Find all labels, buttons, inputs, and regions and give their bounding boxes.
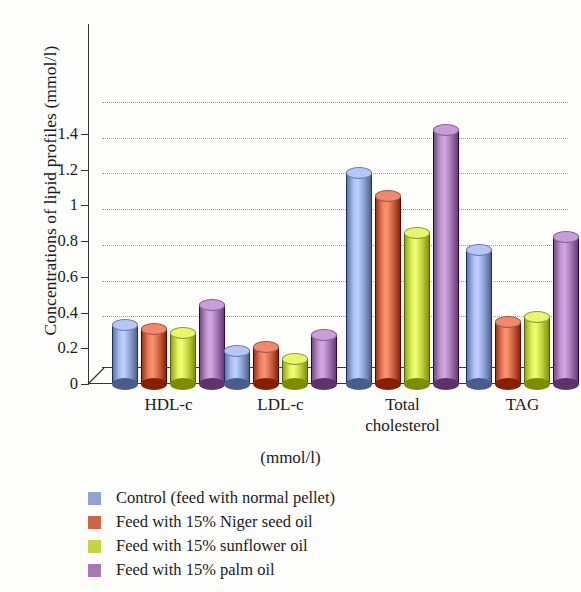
y-axis-tick-label: 0.2 xyxy=(26,338,78,358)
bar-base-ellipse xyxy=(170,378,196,390)
y-axis-tick-label: 1 xyxy=(26,195,78,215)
legend-color-swatch xyxy=(88,564,101,577)
bar-body xyxy=(466,250,492,384)
bar-body xyxy=(495,322,521,385)
bar-base-ellipse xyxy=(466,378,492,390)
bar-body xyxy=(375,196,401,384)
y-axis-tick xyxy=(81,277,89,278)
bar-base-ellipse xyxy=(112,378,138,390)
bar xyxy=(346,167,372,384)
bar-body xyxy=(346,173,372,384)
bar xyxy=(404,227,430,384)
x-axis-category-label: Total cholesterol xyxy=(343,394,463,436)
bar-base-ellipse xyxy=(224,378,250,390)
y-axis-tick xyxy=(81,134,89,135)
legend-label: Feed with 15% Niger seed oil xyxy=(116,512,313,532)
bar-body xyxy=(170,333,196,384)
bar-base-ellipse xyxy=(553,378,579,390)
y-axis-tick xyxy=(81,205,89,206)
gridline xyxy=(102,245,568,246)
bar-body xyxy=(141,329,167,384)
bar-base-ellipse xyxy=(199,378,225,390)
bar xyxy=(311,329,337,384)
bar-top-outline xyxy=(375,190,401,202)
bar-base-ellipse xyxy=(433,378,459,390)
bar xyxy=(433,124,459,384)
bar xyxy=(253,341,279,384)
legend-label: Feed with 15% palm oil xyxy=(116,560,275,580)
y-axis-tick-label: 1.2 xyxy=(26,159,78,179)
bar-body xyxy=(311,335,337,384)
bar xyxy=(282,353,308,384)
y-axis-tick-label: 0.8 xyxy=(26,231,78,251)
y-axis-tick-label: 0.6 xyxy=(26,266,78,286)
legend-color-swatch xyxy=(88,516,101,529)
chart-legend: Control (feed with normal pellet)Feed wi… xyxy=(88,486,335,582)
legend-item: Control (feed with normal pellet) xyxy=(88,486,335,510)
bar xyxy=(141,323,167,384)
x-axis-category-label: LDL-c xyxy=(221,394,341,415)
bar-body xyxy=(404,233,430,384)
bar-base-ellipse xyxy=(495,378,521,390)
x-axis-category-label: HDL-c xyxy=(109,394,229,415)
y-axis-tick-label: 1.4 xyxy=(26,124,78,144)
bar-top-outline xyxy=(282,353,308,365)
bar-body xyxy=(433,130,459,384)
y-axis-tick xyxy=(81,384,89,385)
gridlines xyxy=(102,6,568,368)
legend-color-swatch xyxy=(88,492,101,505)
bar-base-ellipse xyxy=(253,378,279,390)
bar-top-outline xyxy=(141,323,167,335)
bar-base-ellipse xyxy=(524,378,550,390)
bar-top-outline xyxy=(524,311,550,323)
bar xyxy=(553,231,579,384)
bar-base-ellipse xyxy=(346,378,372,390)
y-axis-tick xyxy=(81,170,89,171)
legend-label: Feed with 15% sunflower oil xyxy=(116,536,308,556)
x-axis-title: (mmol/l) xyxy=(0,448,581,468)
legend-item: Feed with 15% sunflower oil xyxy=(88,534,335,558)
legend-item: Feed with 15% palm oil xyxy=(88,558,335,582)
y-axis-tick-label: 0.4 xyxy=(26,302,78,322)
depth-diagonal xyxy=(88,366,110,384)
gridline xyxy=(102,102,568,103)
bar-top-outline xyxy=(466,244,492,256)
bar-base-ellipse xyxy=(404,378,430,390)
bar-top-outline xyxy=(553,231,579,243)
gridline xyxy=(102,138,568,139)
bar-top-outline xyxy=(495,316,521,328)
bar-body xyxy=(524,317,550,384)
bar xyxy=(466,244,492,384)
bar-base-ellipse xyxy=(141,378,167,390)
bar-body xyxy=(112,325,138,384)
y-axis-tick-label: 0 xyxy=(26,374,78,394)
bar-chart: Concentrations of lipid profiles (mmol/l… xyxy=(0,0,581,592)
y-axis-line xyxy=(88,24,89,384)
bar-base-ellipse xyxy=(375,378,401,390)
bar-body xyxy=(199,305,225,384)
y-axis-tick xyxy=(81,313,89,314)
bar xyxy=(375,190,401,384)
bar-top-outline xyxy=(112,319,138,331)
y-axis-tick xyxy=(81,241,89,242)
gridline xyxy=(102,281,568,282)
bar xyxy=(199,299,225,384)
bar xyxy=(112,319,138,384)
y-axis-tick xyxy=(81,348,89,349)
bar-top-outline xyxy=(224,345,250,357)
bar xyxy=(224,345,250,384)
gridline xyxy=(102,173,568,174)
bar-body xyxy=(553,237,579,384)
legend-color-swatch xyxy=(88,540,101,553)
bar xyxy=(524,311,550,384)
bar-base-ellipse xyxy=(282,378,308,390)
plot-area: 00.20.40.60.811.21.4 HDL-cLDL-cTotal cho… xyxy=(88,6,568,384)
bar xyxy=(170,327,196,384)
bar-base-ellipse xyxy=(311,378,337,390)
x-axis-category-label: TAG xyxy=(463,394,581,415)
legend-label: Control (feed with normal pellet) xyxy=(116,488,335,508)
bar xyxy=(495,316,521,385)
gridline xyxy=(102,209,568,210)
bar-top-outline xyxy=(311,329,337,341)
legend-item: Feed with 15% Niger seed oil xyxy=(88,510,335,534)
